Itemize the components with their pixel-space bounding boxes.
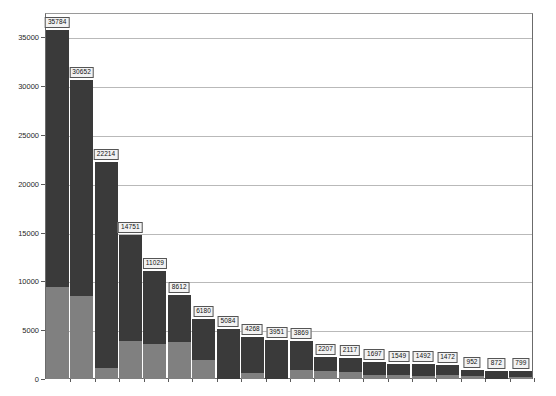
bar-segment-upper (412, 364, 435, 375)
y-tick-label: 35000 (3, 33, 39, 42)
bar[interactable]: 1697 (363, 362, 386, 379)
bar-value-label: 952 (463, 357, 480, 368)
bar-segment-upper (192, 319, 215, 361)
bar-value-label: 2117 (340, 345, 360, 356)
bar-segment-lower (241, 373, 264, 379)
bar-segment-upper (46, 30, 69, 288)
bar-segment-lower (70, 296, 93, 379)
bar[interactable]: 2207 (314, 357, 337, 379)
bar[interactable]: 22214 (95, 162, 118, 379)
bar-segment-upper (70, 80, 93, 296)
bar[interactable]: 14751 (119, 235, 142, 379)
bar-segment-upper (168, 295, 191, 342)
bar-segment-upper (241, 337, 264, 373)
bar-segment-lower (314, 371, 337, 379)
bar-value-label: 6180 (193, 306, 214, 317)
bar-segment-lower (168, 342, 191, 379)
bar-segment-upper (119, 235, 142, 341)
y-tick-label: 30000 (3, 82, 39, 91)
bar-segment-lower (192, 360, 215, 379)
bar-segment-upper (485, 371, 508, 380)
bar-value-label: 1697 (364, 349, 385, 360)
bar-value-label: 1492 (413, 351, 434, 362)
bar[interactable]: 1472 (436, 365, 459, 379)
y-tick-label: 25000 (3, 131, 39, 140)
bar-segment-lower (387, 375, 410, 379)
bar[interactable]: 30652 (70, 80, 93, 379)
bar-value-label: 3951 (266, 327, 287, 338)
bar-segment-upper (314, 357, 337, 371)
bar-value-label: 1549 (388, 351, 409, 362)
bar-segment-upper (363, 362, 386, 374)
bar-value-label: 872 (488, 358, 505, 369)
bar-segment-lower (119, 341, 142, 379)
y-tick-label: 10000 (3, 277, 39, 286)
bar-value-label: 35784 (45, 17, 70, 28)
bar-value-label: 799 (512, 358, 529, 369)
x-tick-mark (534, 378, 535, 382)
bar[interactable]: 1549 (387, 364, 410, 379)
bar-segment-lower (46, 287, 69, 379)
y-tick-label: 20000 (3, 179, 39, 188)
bar-segment-upper (265, 340, 288, 379)
bar-segment-lower (95, 368, 118, 379)
bar-value-label: 30652 (69, 67, 94, 78)
bar[interactable]: 1492 (412, 364, 435, 379)
bar-value-label: 14751 (118, 222, 143, 233)
bar-segment-upper (217, 329, 240, 379)
bar-segment-lower (363, 375, 386, 379)
bar[interactable]: 952 (461, 370, 484, 379)
bar[interactable]: 4268 (241, 337, 264, 379)
bar-value-label: 4268 (242, 324, 263, 335)
y-tick-mark (41, 379, 45, 380)
bar-value-label: 5084 (218, 316, 239, 327)
bar[interactable]: 3869 (290, 341, 313, 379)
bar[interactable]: 6180 (192, 319, 215, 379)
bar-value-label: 1472 (437, 352, 458, 363)
bar[interactable]: 3951 (265, 340, 288, 379)
bar[interactable]: 2117 (339, 358, 362, 379)
bar[interactable]: 35784 (46, 30, 69, 379)
bar-segment-lower (143, 344, 166, 379)
y-tick-label: 15000 (3, 228, 39, 237)
bar-segment-upper (436, 365, 459, 375)
bar-segment-lower (461, 376, 484, 379)
bar-segment-upper (143, 271, 166, 344)
bar-segment-upper (387, 364, 410, 375)
bar-value-label: 2207 (315, 344, 336, 355)
bar-segment-upper (339, 358, 362, 372)
y-tick-label: 0 (3, 375, 39, 384)
bar-value-label: 11029 (143, 258, 167, 269)
bar[interactable]: 799 (509, 371, 532, 379)
bar-segment-lower (339, 372, 362, 379)
bar-segment-upper (290, 341, 313, 370)
bar-segment-lower (412, 376, 435, 379)
bar-segment-lower (509, 377, 532, 379)
bar[interactable]: 5084 (217, 329, 240, 379)
bar[interactable]: 8612 (168, 295, 191, 379)
bar[interactable]: 11029 (143, 271, 166, 379)
bar-value-label: 8612 (169, 282, 190, 293)
bar-segment-upper (95, 162, 118, 368)
y-tick-label: 5000 (3, 326, 39, 335)
bar-segment-lower (436, 375, 459, 379)
bar[interactable]: 872 (485, 371, 508, 380)
bar-value-label: 22214 (94, 149, 119, 160)
bars-layer: 3578430652222141475111029861261805084426… (45, 13, 533, 379)
bar-chart: 05000100001500020000250003000035000 3578… (0, 0, 556, 396)
bar-value-label: 3869 (291, 328, 312, 339)
bar-segment-lower (290, 370, 313, 379)
